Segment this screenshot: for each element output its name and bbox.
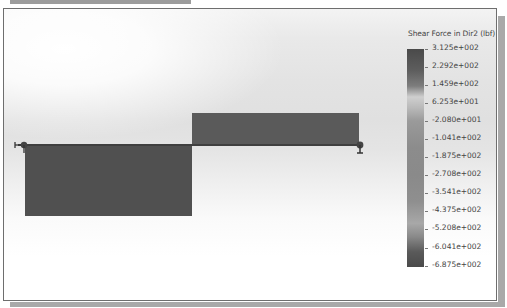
roller-support-icon <box>352 137 368 157</box>
legend-tick-label: -4.375e+002 <box>432 205 481 214</box>
frame-shadow-right <box>498 16 505 307</box>
legend-tick-label: 2.292e+002 <box>432 61 479 70</box>
legend-tick-label: -6.875e+002 <box>432 260 481 269</box>
legend-tick-label: -5.208e+002 <box>432 223 481 232</box>
legend-tick-label: 1.459e+002 <box>432 79 479 88</box>
legend-tick <box>425 139 428 140</box>
pin-support-icon <box>14 137 32 155</box>
legend-tick <box>425 49 428 50</box>
legend-tick <box>425 157 428 158</box>
legend-tick-label: 3.125e+002 <box>432 43 479 52</box>
legend-tick-label: -2.708e+002 <box>432 169 481 178</box>
legend-tick <box>425 121 428 122</box>
legend-tick-label: -6.041e+002 <box>432 242 481 251</box>
legend-tick-label: -1.041e+002 <box>432 133 481 142</box>
legend-title: Shear Force in Dir2 (lbf) <box>408 29 495 38</box>
legend-tick <box>425 266 428 267</box>
window-tab-strip <box>10 0 191 4</box>
legend-tick <box>425 175 428 176</box>
legend-tick-label: 6.253e+001 <box>432 97 479 106</box>
frame-shadow-bottom <box>10 302 505 307</box>
legend-tick-label: -2.080e+001 <box>432 115 481 124</box>
legend-tick <box>425 193 428 194</box>
shear-force-diagram: Shear Force in Dir2 (lbf) 3.125e+002 2.2… <box>4 9 496 300</box>
legend-tick-label: -3.541e+002 <box>432 187 481 196</box>
positive-shear-block <box>192 113 359 146</box>
beam-axis <box>18 144 361 146</box>
negative-shear-block <box>25 144 192 216</box>
legend-tick <box>425 85 428 86</box>
legend-tick <box>425 211 428 212</box>
legend-tick <box>425 248 428 249</box>
legend-tick <box>425 229 428 230</box>
legend-colorbar <box>407 49 424 267</box>
legend-tick <box>425 103 428 104</box>
legend-tick-label: -1.875e+002 <box>432 151 481 160</box>
graphics-viewport[interactable]: Shear Force in Dir2 (lbf) 3.125e+002 2.2… <box>3 8 497 301</box>
legend-tick <box>425 67 428 68</box>
